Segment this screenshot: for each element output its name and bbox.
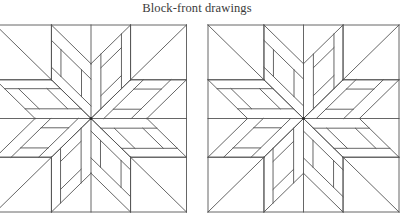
center-point — [90, 117, 93, 120]
block-drawings — [0, 0, 412, 220]
pattern-line — [264, 25, 304, 64]
pattern-line — [208, 119, 248, 158]
pattern-line — [91, 173, 131, 212]
pattern-line — [147, 80, 187, 119]
pattern-line — [208, 157, 264, 212]
pattern-line — [343, 157, 399, 212]
pattern-line — [0, 157, 51, 212]
pattern-line — [304, 173, 344, 212]
pattern-line — [101, 76, 122, 96]
pattern-line — [0, 25, 51, 80]
pattern-line — [327, 128, 348, 148]
pattern-line — [47, 89, 68, 109]
pattern-line — [313, 76, 334, 96]
pattern-line — [61, 141, 82, 161]
right-block-drawing — [208, 25, 399, 212]
pattern-line — [208, 25, 264, 80]
pattern-line — [131, 157, 187, 212]
center-point — [302, 117, 305, 120]
left-block-drawing — [0, 25, 187, 212]
pattern-line — [131, 25, 187, 80]
pattern-line — [51, 25, 91, 64]
pattern-line — [114, 128, 135, 148]
pattern-line — [359, 80, 399, 119]
pattern-line — [343, 25, 399, 80]
pattern-line — [260, 89, 281, 109]
pattern-line — [273, 141, 294, 161]
